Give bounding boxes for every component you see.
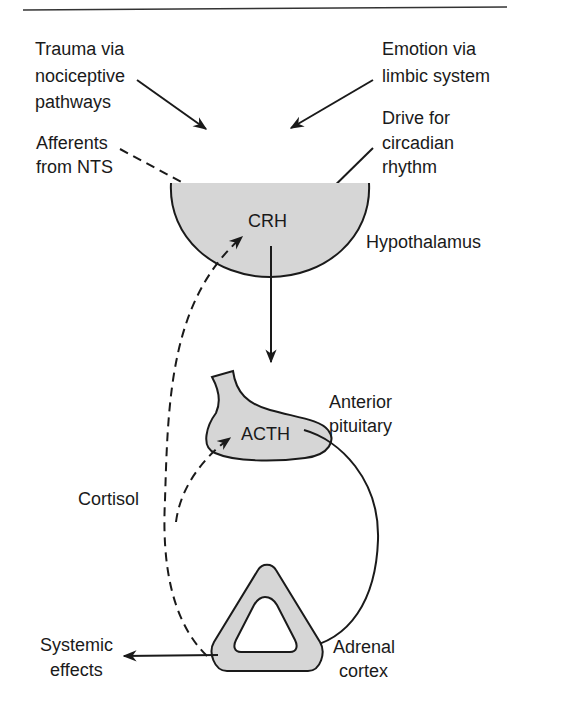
pituitary-label: Anterior pituitary <box>329 392 397 436</box>
hypothalamus-label: Hypothalamus <box>366 232 481 252</box>
acth-label: ACTH <box>241 424 290 444</box>
systemic-effects-label: Systemic effects <box>40 635 118 680</box>
crh-label: CRH <box>248 211 287 231</box>
systemic-effects-arrow <box>124 655 218 656</box>
hpa-axis-diagram: Trauma via nociceptive pathways Emotion … <box>0 0 567 707</box>
trauma-label: Trauma via nociceptive pathways <box>35 39 130 112</box>
afferents-label: Afferents from NTS <box>36 133 113 177</box>
emotion-label: Emotion via limbic system <box>382 39 490 86</box>
acth-to-adrenal-arrow <box>304 430 378 648</box>
adrenal-label: Adrenal cortex <box>333 637 400 681</box>
cortisol-label: Cortisol <box>78 489 139 509</box>
circadian-label: Drive for circadian rhythm <box>382 108 459 177</box>
top-rule <box>23 7 507 10</box>
trauma-arrow <box>137 80 206 129</box>
emotion-arrow <box>291 80 373 128</box>
adrenal-shape <box>212 565 323 671</box>
pituitary-shape <box>206 371 331 461</box>
